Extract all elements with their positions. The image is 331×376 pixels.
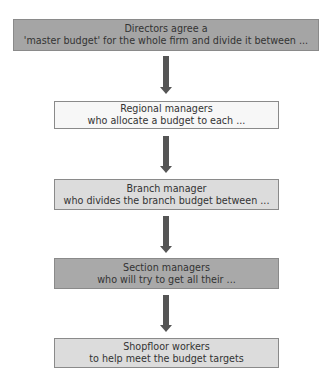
node-branch-line1: Branch manager: [126, 183, 206, 195]
arrow-down-icon: [160, 56, 172, 94]
node-section-line1: Section managers: [123, 262, 210, 274]
node-shopfloor-workers: Shopfloor workers to help meet the budge…: [54, 338, 279, 368]
node-shopfloor-line1: Shopfloor workers: [123, 341, 210, 353]
node-regional-line1: Regional managers: [120, 103, 213, 115]
arrow-down-icon: [160, 295, 172, 332]
node-shopfloor-line2: to help meet the budget targets: [89, 353, 243, 365]
node-directors-line2: 'master budget' for the whole firm and d…: [24, 35, 308, 47]
node-section-line2: who will try to get all their ...: [97, 274, 235, 286]
node-regional-line2: who allocate a budget to each ...: [88, 115, 246, 127]
arrow-down-icon: [160, 136, 172, 173]
arrow-down-icon: [160, 216, 172, 253]
node-branch-line2: who divides the branch budget between ..…: [64, 195, 270, 207]
node-regional-managers: Regional managers who allocate a budget …: [54, 101, 279, 129]
node-directors-line1: Directors agree a: [124, 23, 207, 35]
node-directors: Directors agree a 'master budget' for th…: [13, 19, 319, 51]
node-branch-manager: Branch manager who divides the branch bu…: [54, 179, 279, 210]
node-section-managers: Section managers who will try to get all…: [54, 258, 279, 289]
